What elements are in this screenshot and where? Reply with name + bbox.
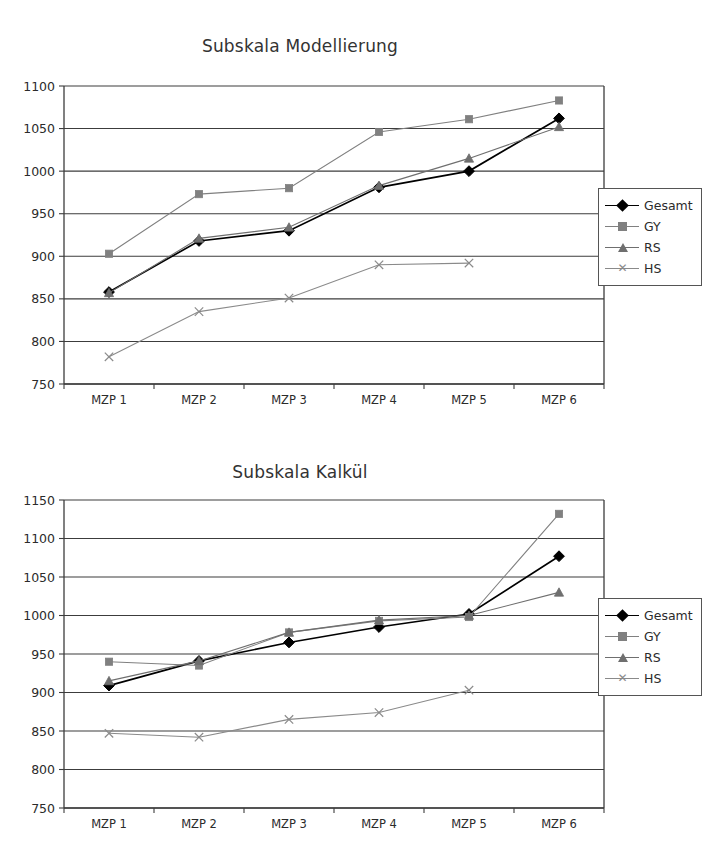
data-point-triangle <box>554 122 563 130</box>
legend-item-hs[interactable]: ✕HS <box>605 668 693 689</box>
square-marker-icon <box>618 222 627 231</box>
legend-swatch: ✕ <box>605 672 639 686</box>
legend-item-label: Gesamt <box>644 198 693 213</box>
legend-swatch <box>605 651 639 665</box>
data-point-square <box>375 128 382 135</box>
data-point-square <box>555 97 562 104</box>
y-tick-label: 850 <box>31 724 55 739</box>
data-point-square <box>285 185 292 192</box>
cross-marker-icon: ✕ <box>617 263 628 274</box>
legend-swatch: ✕ <box>605 262 639 276</box>
y-tick-label: 750 <box>31 377 55 392</box>
y-tick-label: 1000 <box>23 608 55 623</box>
x-tick-label: MZP 4 <box>361 817 397 831</box>
y-tick-label: 1050 <box>23 570 55 585</box>
data-point-triangle <box>284 223 293 231</box>
legend-swatch <box>605 241 639 255</box>
legend-item-label: HS <box>644 671 661 686</box>
legend-kalkuel: GesamtGYRS✕HS <box>598 598 702 696</box>
series-line-gy <box>109 101 559 254</box>
y-tick-label: 800 <box>31 762 55 777</box>
series-line-gesamt <box>109 118 559 292</box>
chart-title-modellierung: Subskala Modellierung <box>0 36 600 56</box>
legend-item-hs[interactable]: ✕HS <box>605 258 693 279</box>
legend-swatch <box>605 199 639 213</box>
legend-item-gesamt[interactable]: Gesamt <box>605 195 693 216</box>
legend-item-rs[interactable]: RS <box>605 237 693 258</box>
series-line-hs <box>109 263 469 357</box>
y-tick-label: 850 <box>31 291 55 306</box>
y-tick-label: 1150 <box>23 493 55 508</box>
triangle-marker-icon <box>618 243 628 252</box>
legend-item-label: GY <box>644 629 661 644</box>
data-point-square <box>555 510 562 517</box>
y-tick-label: 1100 <box>23 531 55 546</box>
x-tick-label: MZP 3 <box>271 393 307 407</box>
legend-item-label: GY <box>644 219 661 234</box>
y-tick-label: 750 <box>31 801 55 816</box>
legend-swatch <box>605 609 639 623</box>
legend-item-rs[interactable]: RS <box>605 647 693 668</box>
x-tick-label: MZP 1 <box>91 817 127 831</box>
y-tick-label: 900 <box>31 685 55 700</box>
legend-item-label: RS <box>644 650 661 665</box>
x-tick-label: MZP 1 <box>91 393 127 407</box>
data-point-triangle <box>464 154 473 162</box>
plot-svg-kalkuel: 7508008509009501000105011001150MZP 1MZP … <box>22 492 612 842</box>
legend-item-label: RS <box>644 240 661 255</box>
diamond-marker-icon <box>616 199 629 212</box>
series-line-gy <box>109 514 559 666</box>
legend-item-label: HS <box>644 261 661 276</box>
y-tick-label: 950 <box>31 647 55 662</box>
cross-marker-icon: ✕ <box>617 673 628 684</box>
x-tick-label: MZP 5 <box>451 817 487 831</box>
square-marker-icon <box>618 632 627 641</box>
plot-area-modellierung: 750800850900950100010501100MZP 1MZP 2MZP… <box>22 78 612 418</box>
data-point-triangle <box>554 588 563 596</box>
y-tick-label: 1050 <box>23 121 55 136</box>
y-tick-label: 800 <box>31 334 55 349</box>
y-tick-label: 1000 <box>23 164 55 179</box>
legend-item-gesamt[interactable]: Gesamt <box>605 605 693 626</box>
diamond-marker-icon <box>616 609 629 622</box>
x-tick-label: MZP 3 <box>271 817 307 831</box>
x-tick-label: MZP 5 <box>451 393 487 407</box>
data-point-square <box>465 116 472 123</box>
legend-item-gy[interactable]: GY <box>605 216 693 237</box>
x-tick-label: MZP 2 <box>181 393 217 407</box>
legend-item-gy[interactable]: GY <box>605 626 693 647</box>
triangle-marker-icon <box>618 653 628 662</box>
x-tick-label: MZP 6 <box>541 817 577 831</box>
x-tick-label: MZP 2 <box>181 817 217 831</box>
plot-area-kalkuel: 7508008509009501000105011001150MZP 1MZP … <box>22 492 612 842</box>
x-tick-label: MZP 6 <box>541 393 577 407</box>
legend-modellierung: GesamtGYRS✕HS <box>598 188 702 286</box>
data-point-diamond <box>554 551 565 562</box>
chart-kalkuel: Subskala Kalkül 750800850900950100010501… <box>0 440 722 868</box>
plot-svg-modellierung: 750800850900950100010501100MZP 1MZP 2MZP… <box>22 78 612 418</box>
data-point-square <box>105 658 112 665</box>
y-tick-label: 950 <box>31 206 55 221</box>
x-tick-label: MZP 4 <box>361 393 397 407</box>
series-line-hs <box>109 690 469 737</box>
legend-item-label: Gesamt <box>644 608 693 623</box>
y-tick-label: 900 <box>31 249 55 264</box>
legend-swatch <box>605 630 639 644</box>
chart-modellierung: Subskala Modellierung 750800850900950100… <box>0 0 722 440</box>
legend-swatch <box>605 220 639 234</box>
figure-page: Subskala Modellierung 750800850900950100… <box>0 0 722 868</box>
data-point-diamond <box>464 166 475 177</box>
data-point-square <box>105 250 112 257</box>
y-tick-label: 1100 <box>23 79 55 94</box>
data-point-diamond <box>284 637 295 648</box>
data-point-square <box>195 191 202 198</box>
chart-title-kalkuel: Subskala Kalkül <box>0 462 600 482</box>
